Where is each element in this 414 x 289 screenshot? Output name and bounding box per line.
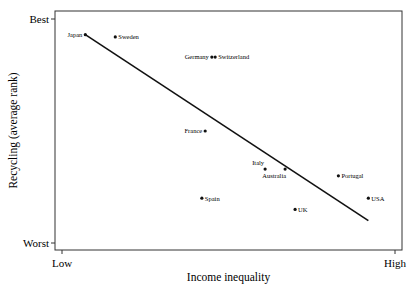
y-tick-worst-label: Worst — [23, 237, 49, 249]
plot-frame — [55, 11, 402, 250]
point-sweden — [114, 35, 117, 38]
point-label-switzerland: Switzerland — [218, 53, 250, 60]
y-axis-title: Recycling (average rank) — [7, 72, 20, 188]
point-italy — [264, 167, 267, 170]
x-tick-high-label: High — [384, 257, 407, 269]
x-axis-title: Income inequality — [187, 271, 271, 284]
point-japan — [84, 33, 87, 36]
y-tick-best-label: Best — [29, 13, 49, 25]
point-label-sweden: Sweden — [118, 33, 139, 40]
point-label-portugal: Portugal — [341, 172, 363, 179]
point-label-australia: Australia — [262, 172, 286, 179]
point-label-spain: Spain — [205, 195, 221, 202]
trend-line — [85, 35, 368, 221]
point-label-uk: UK — [298, 206, 308, 213]
point-label-italy: Italy — [252, 159, 265, 166]
point-label-japan: Japan — [67, 31, 83, 38]
point-portugal — [337, 174, 340, 177]
point-australia — [284, 167, 287, 170]
point-france — [204, 129, 207, 132]
x-tick-low-label: Low — [52, 257, 72, 269]
point-label-germany: Germany — [185, 53, 210, 60]
point-label-france: France — [185, 127, 203, 134]
point-label-usa: USA — [371, 195, 384, 202]
scatter-chart: BestWorstLowHighIncome inequalityRecycli… — [0, 0, 414, 289]
point-germany — [210, 55, 213, 58]
point-spain — [200, 197, 203, 200]
point-switzerland — [214, 55, 217, 58]
point-uk — [294, 208, 297, 211]
point-usa — [367, 197, 370, 200]
